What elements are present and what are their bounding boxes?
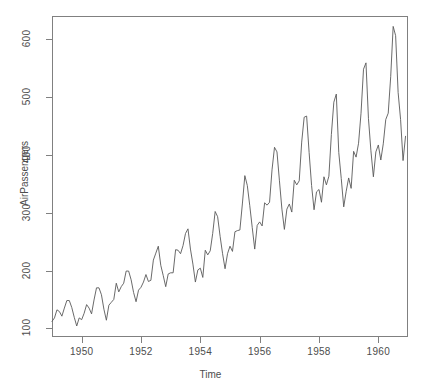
- y-tick-100: [46, 328, 52, 329]
- y-tick-400: [46, 155, 52, 156]
- y-tick-200: [46, 271, 52, 272]
- air-passengers-plot: 100200300400500600 195019521954195619581…: [0, 0, 421, 390]
- x-tick-label-1960: 1960: [358, 346, 398, 357]
- air-passengers-line: [52, 26, 406, 326]
- x-tick-label-1952: 1952: [121, 346, 161, 357]
- x-tick-label-1954: 1954: [180, 346, 220, 357]
- x-tick-1952: [141, 337, 142, 343]
- x-tick-1954: [200, 337, 201, 343]
- y-tick-label-200: 200: [21, 256, 32, 284]
- x-tick-1958: [319, 337, 320, 343]
- y-axis-title: AirPassengers: [19, 119, 30, 229]
- x-tick-label-1956: 1956: [240, 346, 280, 357]
- y-tick-label-100: 100: [21, 314, 32, 342]
- y-tick-300: [46, 213, 52, 214]
- x-tick-label-1958: 1958: [299, 346, 339, 357]
- y-tick-label-500: 500: [21, 83, 32, 111]
- x-tick-1960: [378, 337, 379, 343]
- y-tick-label-600: 600: [21, 25, 32, 53]
- x-tick-1950: [82, 337, 83, 343]
- y-tick-500: [46, 97, 52, 98]
- y-tick-600: [46, 39, 52, 40]
- x-tick-label-1950: 1950: [62, 346, 102, 357]
- series-layer: [52, 16, 408, 337]
- x-axis-title: Time: [0, 369, 421, 380]
- x-tick-1956: [260, 337, 261, 343]
